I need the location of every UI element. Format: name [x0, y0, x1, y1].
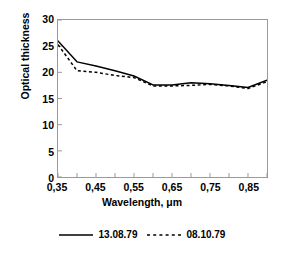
y-tick-label: 20: [32, 67, 54, 77]
legend-item-solid: 13.08.79: [59, 229, 138, 240]
plot-svg: [58, 20, 267, 177]
y-tick-label: 5: [32, 147, 54, 157]
y-tick-label: 30: [32, 14, 54, 24]
chart-legend: 13.08.79 08.10.79: [0, 229, 284, 240]
legend-swatch-solid-icon: [59, 231, 93, 239]
x-tick-label: 0,85: [229, 181, 269, 193]
x-tick-label: 0,75: [190, 181, 230, 193]
series-line-solid: [58, 41, 267, 88]
legend-label-solid: 13.08.79: [99, 229, 138, 240]
y-axis-tick-labels: 051015202530: [30, 0, 54, 254]
x-axis-ticks: [58, 173, 267, 177]
x-tick-label: 0,45: [75, 181, 115, 193]
x-tick-label: 0,35: [37, 181, 77, 193]
x-tick-label: 0,65: [152, 181, 192, 193]
legend-label-dashed: 08.10.79: [187, 229, 226, 240]
chart-figure: Optical thickness 051015202530 0,350,450…: [0, 0, 284, 254]
y-tick-label: 15: [32, 94, 54, 104]
legend-swatch-dashed-icon: [147, 231, 181, 239]
series-line-dashed: [58, 45, 267, 89]
y-tick-label: 25: [32, 41, 54, 51]
x-tick-label: 0,55: [114, 181, 154, 193]
plot-area: [57, 19, 268, 178]
x-axis-tick-labels: 0,350,450,550,650,750,85: [57, 181, 268, 197]
y-tick-label: 10: [32, 120, 54, 130]
x-axis-title: Wavelength, μm: [0, 196, 284, 208]
legend-item-dashed: 08.10.79: [147, 229, 226, 240]
